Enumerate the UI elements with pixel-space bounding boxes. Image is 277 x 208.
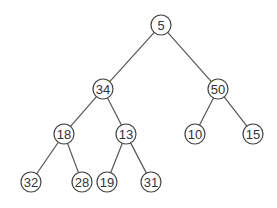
node-label: 50 (211, 82, 225, 97)
tree-edge (68, 143, 79, 172)
tree-edge (110, 32, 155, 81)
node-label: 19 (100, 175, 114, 190)
tree-edge (224, 97, 247, 126)
tree-node: 13 (116, 124, 136, 144)
node-label: 13 (119, 127, 133, 142)
tree-node: 32 (21, 172, 41, 192)
tree-node: 5 (151, 15, 171, 35)
tree-node: 15 (243, 124, 263, 144)
tree-node: 31 (141, 172, 161, 192)
tree-edge (168, 32, 212, 81)
node-label: 18 (57, 127, 71, 142)
node-label: 31 (144, 175, 158, 190)
tree-edge (131, 143, 147, 173)
tree-node: 19 (97, 172, 117, 192)
tree-node: 18 (54, 124, 74, 144)
node-label: 34 (96, 82, 110, 97)
binary-tree-diagram: 534501813101532281931 (0, 0, 277, 208)
node-label: 5 (157, 18, 164, 33)
tree-node: 10 (185, 124, 205, 144)
tree-node: 50 (208, 79, 228, 99)
node-label: 15 (246, 127, 260, 142)
node-label: 28 (75, 175, 89, 190)
node-label: 32 (24, 175, 38, 190)
tree-edge (200, 98, 214, 125)
tree-node: 34 (93, 79, 113, 99)
tree-edge (108, 98, 122, 125)
tree-edge (71, 97, 97, 127)
tree-node: 28 (72, 172, 92, 192)
tree-edges (37, 32, 247, 173)
tree-edge (37, 142, 59, 174)
node-label: 10 (188, 127, 202, 142)
tree-edge (111, 143, 123, 172)
